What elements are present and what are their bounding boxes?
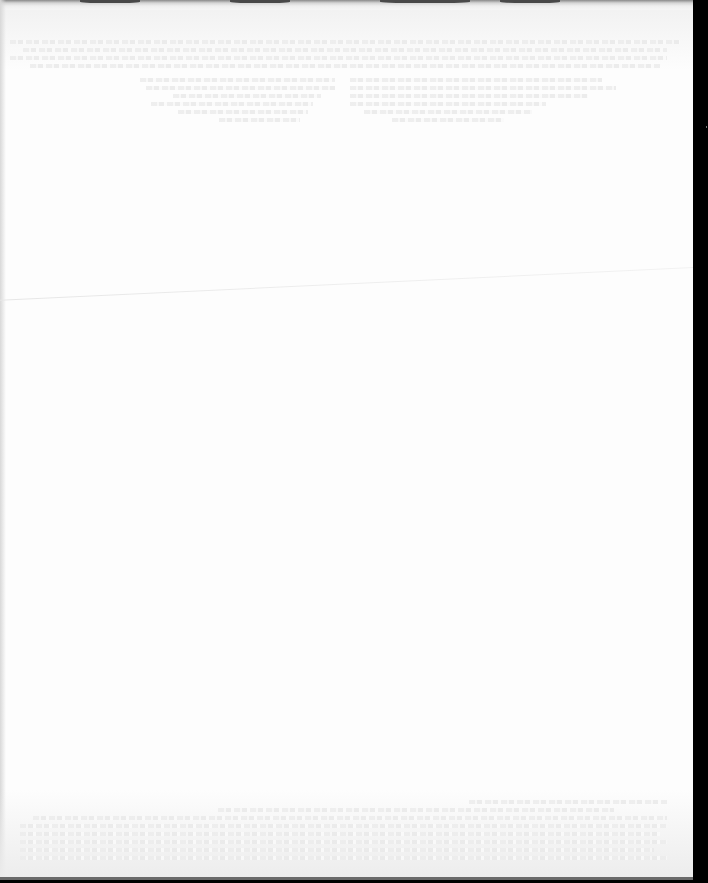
blank-page	[0, 0, 693, 880]
scanned-document	[0, 0, 708, 883]
scan-speck	[706, 126, 707, 128]
bottom-scan-edge	[0, 877, 693, 880]
top-edge-shadow	[500, 0, 560, 3]
top-edge-shadow	[230, 0, 290, 3]
top-edge-shadow	[380, 0, 470, 3]
left-edge-shadow	[0, 0, 6, 880]
bleed-through-column-left	[70, 78, 340, 126]
top-edge-shadow	[80, 0, 140, 3]
bleed-through-top-band	[10, 40, 680, 72]
page-crease	[0, 267, 693, 301]
bleed-through-bottom-band	[20, 800, 680, 864]
bleed-through-column-right	[350, 78, 630, 126]
right-scan-border	[693, 0, 708, 883]
